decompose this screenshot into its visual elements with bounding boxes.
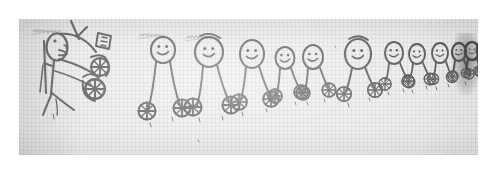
wheel bbox=[139, 103, 156, 120]
wheel bbox=[322, 83, 336, 97]
graph-paper-sheet bbox=[19, 19, 478, 155]
figure-3 bbox=[185, 34, 240, 122]
wheel bbox=[379, 78, 391, 90]
wheel bbox=[403, 76, 415, 88]
figure-4 bbox=[231, 40, 279, 116]
tiny-pencil-marks bbox=[172, 46, 466, 142]
wheel bbox=[231, 94, 247, 110]
wheel bbox=[427, 73, 438, 84]
figure-7 bbox=[337, 36, 382, 107]
figure-2 bbox=[139, 37, 191, 127]
wheel bbox=[263, 91, 279, 107]
flag-shape bbox=[96, 33, 111, 49]
wheel bbox=[91, 58, 109, 76]
wheel bbox=[185, 99, 202, 116]
wheel bbox=[296, 86, 310, 100]
wheel bbox=[85, 79, 105, 99]
wheel bbox=[448, 71, 458, 81]
wheel bbox=[461, 68, 471, 78]
figure-1-large bbox=[32, 21, 111, 119]
image-caption: Child's pencil drawing: a row of smiling… bbox=[0, 0, 1, 1]
pencil-drawing-layer bbox=[19, 19, 478, 155]
figure-6 bbox=[296, 45, 336, 105]
wheel bbox=[368, 83, 382, 97]
wheel bbox=[337, 87, 351, 101]
scanned-drawing-image: Child's pencil drawing: a row of smiling… bbox=[0, 0, 497, 173]
wheel bbox=[268, 89, 282, 103]
